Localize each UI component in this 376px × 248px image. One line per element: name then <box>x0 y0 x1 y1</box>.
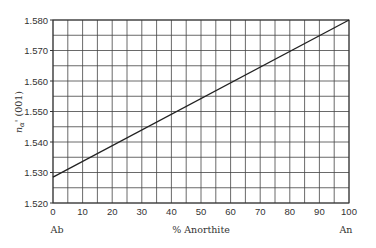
x-tick-label: 20 <box>107 206 118 217</box>
x-end-label-an: An <box>339 224 353 235</box>
x-tick-label: 60 <box>225 206 236 217</box>
y-axis-ticks: 1.5201.5301.5401.5501.5601.5701.580 <box>24 15 53 209</box>
x-tick-label: 10 <box>77 206 88 217</box>
x-end-label-ab: Ab <box>50 224 64 235</box>
x-tick-label: 80 <box>285 206 296 217</box>
x-tick-label: 30 <box>137 206 148 217</box>
grid <box>53 20 349 203</box>
y-tick-label: 1.580 <box>24 15 48 26</box>
y-tick-label: 1.560 <box>24 76 48 87</box>
x-tick-label: 90 <box>314 206 325 217</box>
x-tick-label: 50 <box>196 206 207 217</box>
y-tick-label: 1.540 <box>24 137 48 148</box>
x-tick-label: 40 <box>166 206 177 217</box>
chart: 1.5201.5301.5401.5501.5601.5701.580 0102… <box>0 0 376 248</box>
x-axis-label: % Anorthite <box>172 224 230 235</box>
x-tick-label: 0 <box>50 206 55 217</box>
x-tick-label: 70 <box>255 206 266 217</box>
x-tick-label: 100 <box>341 206 357 217</box>
x-axis-ticks: 0102030405060708090100 <box>50 206 357 217</box>
y-tick-label: 1.530 <box>24 167 48 178</box>
y-tick-label: 1.520 <box>24 198 48 209</box>
y-tick-label: 1.570 <box>24 45 48 56</box>
y-tick-label: 1.550 <box>24 106 48 117</box>
